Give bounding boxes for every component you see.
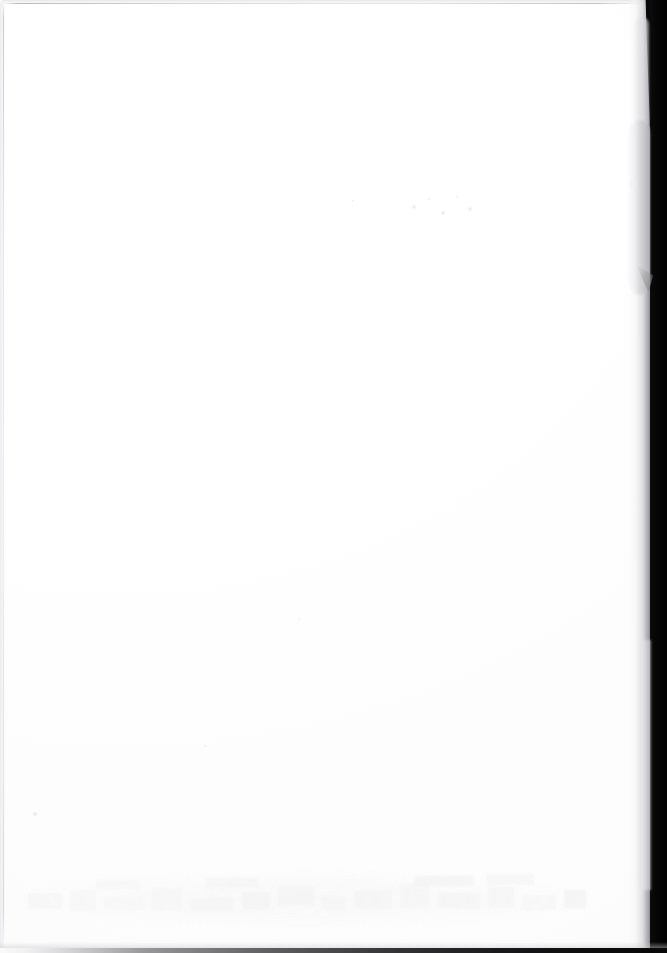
scanner-background-strip-bottom	[0, 948, 667, 953]
paper-sheet	[0, 0, 667, 953]
scanner-background-core-right	[650, 0, 667, 953]
left-edge-line	[3, 3, 4, 947]
top-edge-line	[4, 3, 646, 4]
scanned-page-canvas: Blank white scanned page with dark scann…	[0, 0, 667, 953]
